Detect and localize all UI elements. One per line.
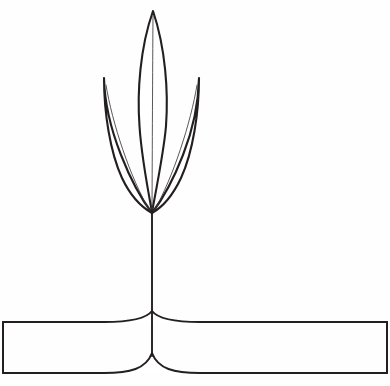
figure-canvas [0, 0, 390, 386]
background-rect [0, 0, 390, 386]
line-drawing-svg [0, 0, 390, 386]
